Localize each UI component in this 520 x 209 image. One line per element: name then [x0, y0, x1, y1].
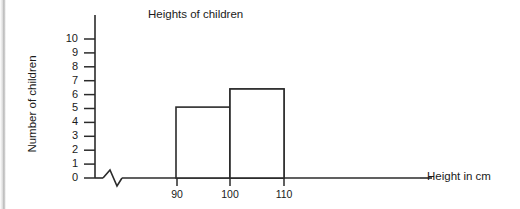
y-tick-label-10: 10	[52, 32, 78, 44]
y-tick-label-4: 4	[56, 115, 78, 127]
x-tick-label-100: 100	[213, 188, 247, 200]
y-tick-label-3: 3	[56, 129, 78, 141]
bar-100-110	[230, 89, 284, 178]
bar-80-90	[176, 107, 230, 178]
x-axis-ticks	[177, 178, 284, 186]
x-tick-label-110: 110	[267, 188, 301, 200]
x-axis-title: Height in cm	[427, 170, 491, 182]
y-axis-title: Number of children	[26, 44, 38, 164]
y-tick-label-6: 6	[56, 88, 78, 100]
y-tick-label-1: 1	[56, 157, 78, 169]
y-axis-ticks	[84, 39, 95, 178]
bar-series	[176, 89, 284, 178]
y-tick-label-7: 7	[56, 74, 78, 86]
histogram-screenshot: Heights of children Number of children H…	[0, 0, 520, 209]
chart-title: Heights of children	[148, 8, 243, 20]
y-tick-label-2: 2	[56, 143, 78, 155]
y-tick-label-5: 5	[56, 101, 78, 113]
y-tick-label-9: 9	[56, 46, 78, 58]
y-tick-label-8: 8	[56, 60, 78, 72]
y-tick-label-0: 0	[56, 171, 78, 183]
x-tick-label-90: 90	[160, 188, 194, 200]
axis-break-zigzag-icon	[103, 170, 122, 186]
